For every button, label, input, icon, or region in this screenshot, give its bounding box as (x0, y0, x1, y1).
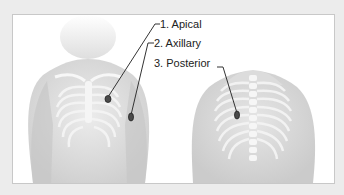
posterior-electrode-icon (235, 111, 240, 119)
front-torso (28, 15, 149, 183)
label-posterior: 3. Posterior (154, 57, 210, 69)
diagram-panel: 1. Apical 2. Axillary 3. Posterior (12, 14, 335, 184)
label-apical: 1. Apical (160, 18, 202, 30)
label-axillary: 2. Axillary (154, 37, 201, 49)
axillary-electrode-icon (129, 113, 134, 121)
back-torso (192, 70, 315, 183)
apical-electrode-icon (105, 96, 111, 103)
